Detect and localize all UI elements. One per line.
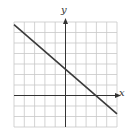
x-axis-label: x <box>119 87 125 98</box>
axes <box>14 18 121 127</box>
y-axis-label: y <box>61 4 67 15</box>
graph <box>0 0 126 137</box>
